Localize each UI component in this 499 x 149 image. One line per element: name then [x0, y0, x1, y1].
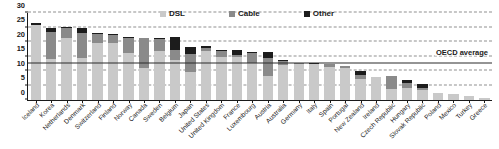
- bar-segment-dsl: [448, 94, 458, 100]
- x-axis-labels: IcelandKoreaNetherlandsDenmarkSwitzerlan…: [28, 101, 492, 149]
- legend-swatch-other: [304, 11, 310, 17]
- bar-column: [152, 13, 167, 100]
- bar-column: [276, 13, 291, 100]
- y-tick-label: 25: [17, 16, 25, 24]
- bar-column: [59, 13, 74, 100]
- bar-column: [229, 13, 244, 100]
- bar-column: [461, 13, 476, 100]
- bar-stack: [479, 98, 489, 100]
- bar-stack: [386, 76, 396, 100]
- y-tick-label: 15: [17, 45, 25, 53]
- legend-swatch-cable: [229, 11, 235, 17]
- bar-segment-dsl: [46, 59, 56, 100]
- bar-column: [43, 13, 58, 100]
- y-tick-label: 20: [17, 31, 25, 39]
- bar-stack: [247, 52, 257, 100]
- bar-stack: [139, 38, 149, 100]
- bar-stack: [340, 66, 350, 100]
- bar-column: [136, 13, 151, 100]
- bar-segment-dsl: [201, 51, 211, 100]
- bar-column: [214, 13, 229, 100]
- bar-stack: [154, 38, 164, 100]
- y-tick-label: 10: [17, 60, 25, 68]
- bar-column: [306, 13, 321, 100]
- bar-stack: [371, 77, 381, 100]
- bar-segment-dsl: [433, 93, 443, 100]
- bar-segment-dsl: [324, 67, 334, 100]
- legend-label-dsl: DSL: [169, 10, 185, 18]
- bar-column: [384, 13, 399, 100]
- bar-segment-dsl: [170, 60, 180, 100]
- broadband-subscribers-chart: 051015202530 OECD average DSL Cable Othe…: [0, 0, 499, 149]
- y-tick-label: 0: [21, 89, 25, 97]
- bar-segment-dsl: [77, 58, 87, 100]
- x-tick-label: Iceland: [21, 102, 41, 122]
- x-label-column: Germany: [291, 101, 306, 149]
- bar-segment-cable: [386, 76, 396, 89]
- x-label-column: Sweden: [152, 101, 167, 149]
- bar-segment-dsl: [402, 88, 412, 100]
- x-label-column: Italy: [306, 101, 321, 149]
- bar-segment-dsl: [123, 53, 133, 100]
- bar-segment-dsl: [139, 68, 149, 100]
- bar-stack: [324, 64, 334, 100]
- bar-stack: [448, 94, 458, 100]
- bar-stack: [170, 37, 180, 100]
- bar-stack: [309, 63, 319, 100]
- y-tick-label: 5: [21, 74, 25, 82]
- bar-segment-dsl: [355, 79, 365, 100]
- bar-stack: [77, 28, 87, 100]
- bar-segment-dsl: [479, 98, 489, 100]
- bar-column: [430, 13, 445, 100]
- bar-column: [260, 13, 275, 100]
- x-label-column: Switzerland: [90, 101, 105, 149]
- bar-column: [291, 13, 306, 100]
- bar-segment-cable: [263, 58, 273, 76]
- bar-column: [121, 13, 136, 100]
- bar-stack: [92, 33, 102, 100]
- bar-stack: [46, 28, 56, 100]
- bar-segment-cable: [61, 28, 71, 38]
- bar-segment-dsl: [154, 51, 164, 100]
- bar-segment-dsl: [185, 72, 195, 100]
- bar-column: [415, 13, 430, 100]
- bar-stack: [123, 37, 133, 100]
- bar-column: [105, 13, 120, 100]
- legend-label-cable: Cable: [238, 10, 260, 18]
- bar-stack: [464, 96, 474, 100]
- bar-column: [90, 13, 105, 100]
- bar-column: [183, 13, 198, 100]
- x-label-column: Luxembourg: [245, 101, 260, 149]
- chart-legend: DSL Cable Other: [160, 10, 334, 18]
- x-label-column: Austria: [260, 101, 275, 149]
- bar-segment-cable: [247, 53, 257, 63]
- bar-stack: [185, 47, 195, 100]
- oecd-average-line: [28, 63, 492, 64]
- plot-area: 051015202530 OECD average: [28, 13, 492, 100]
- bar-segment-cable: [123, 38, 133, 53]
- x-label-column: Poland: [430, 101, 445, 149]
- bar-column: [198, 13, 213, 100]
- bar-column: [245, 13, 260, 100]
- bar-stack: [201, 46, 211, 100]
- bar-segment-dsl: [247, 63, 257, 100]
- bar-segment-dsl: [263, 76, 273, 100]
- bar-column: [399, 13, 414, 100]
- bar-segment-other: [185, 47, 195, 54]
- bar-segment-dsl: [92, 43, 102, 100]
- bar-segment-cable: [77, 33, 87, 58]
- bar-segment-dsl: [61, 38, 71, 100]
- x-label-column: Norway: [121, 101, 136, 149]
- bar-stack: [402, 80, 412, 100]
- bar-segment-cable: [108, 35, 118, 43]
- legend-swatch-dsl: [160, 11, 166, 17]
- bar-column: [322, 13, 337, 100]
- bar-segment-cable: [92, 34, 102, 44]
- bar-column: [28, 13, 43, 100]
- bar-column: [167, 13, 182, 100]
- bar-column: [74, 13, 89, 100]
- bar-segment-dsl: [464, 96, 474, 100]
- bar-stack: [417, 84, 427, 100]
- bar-stack: [263, 52, 273, 100]
- legend-item-dsl: DSL: [160, 10, 185, 18]
